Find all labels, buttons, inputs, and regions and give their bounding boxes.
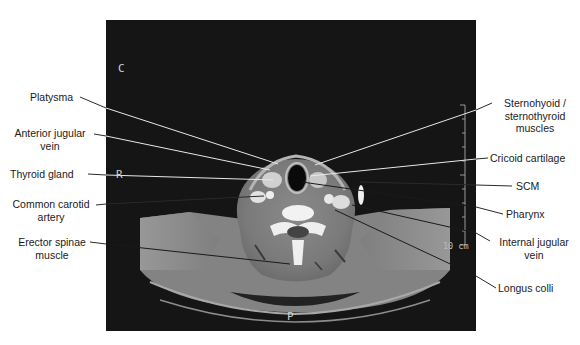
label-scm: SCM bbox=[516, 180, 539, 193]
vertebral-body bbox=[282, 205, 314, 221]
label-longus-colli: Longus colli bbox=[498, 282, 553, 295]
label-common-carotid-artery: Common carotid artery bbox=[6, 198, 96, 223]
label-text-line2: sternothyroid bbox=[494, 110, 576, 123]
label-text: Erector spinae bbox=[12, 236, 92, 249]
label-text: Internal jugular bbox=[492, 236, 576, 249]
orientation-marker-top: C bbox=[118, 62, 125, 75]
label-sternohyoid-sternothyroid: Sternohyoid / sternothyroid muscles bbox=[494, 97, 576, 135]
label-internal-jugular-vein: Internal jugular vein bbox=[492, 236, 576, 261]
figure-canvas: C R P 10 cm Platysma Anterior jugular ve… bbox=[0, 0, 580, 345]
label-anterior-jugular-vein: Anterior jugular vein bbox=[7, 127, 93, 152]
scale-bar-label: 10 cm bbox=[443, 241, 469, 251]
label-text-line2: vein bbox=[7, 140, 93, 153]
label-erector-spinae-muscle: Erector spinae muscle bbox=[12, 236, 92, 261]
label-text: Anterior jugular bbox=[7, 127, 93, 140]
label-text: Cricoid cartilage bbox=[490, 152, 565, 165]
orientation-marker-side: R bbox=[116, 168, 123, 181]
label-text-line2: muscle bbox=[12, 249, 92, 262]
label-text: Platysma bbox=[30, 91, 73, 104]
airway-pharynx bbox=[288, 165, 306, 191]
label-text: SCM bbox=[516, 180, 539, 193]
label-pharynx: Pharynx bbox=[506, 208, 545, 221]
label-platysma: Platysma bbox=[30, 91, 73, 104]
label-thyroid-gland: Thyroid gland bbox=[10, 168, 74, 181]
label-text: Longus colli bbox=[498, 282, 553, 295]
label-text: Sternohyoid / bbox=[494, 97, 576, 110]
label-text-line2: artery bbox=[6, 211, 96, 224]
label-text: Common carotid bbox=[6, 198, 96, 211]
label-text-line3: muscles bbox=[494, 122, 576, 135]
label-text: Thyroid gland bbox=[10, 168, 74, 181]
orientation-marker-bottom: P bbox=[287, 310, 294, 323]
label-text-line2: vein bbox=[492, 249, 576, 262]
scale-ruler bbox=[460, 105, 465, 245]
label-text: Pharynx bbox=[506, 208, 545, 221]
label-cricoid-cartilage: Cricoid cartilage bbox=[490, 152, 565, 165]
ct-anatomy-render bbox=[0, 0, 580, 345]
